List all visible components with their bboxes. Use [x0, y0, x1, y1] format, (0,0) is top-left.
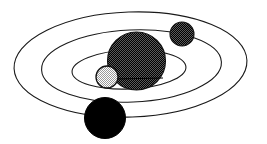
orbital-diagram-canvas [0, 0, 267, 144]
sphere-light [96, 66, 118, 88]
orbital-diagram-figure [0, 0, 267, 144]
sphere-upper-right [170, 22, 194, 46]
sphere-lower-black [85, 98, 126, 139]
